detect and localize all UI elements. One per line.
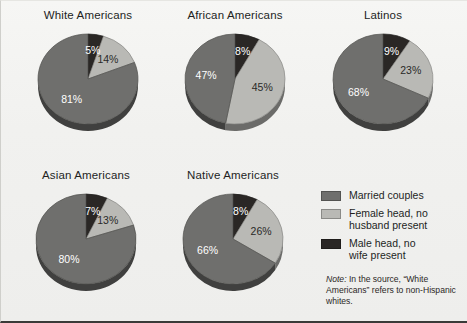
pie-slice-label: 9% <box>384 45 399 57</box>
pie-panel-african-americans: African Americans 8%45%47% <box>160 9 310 159</box>
pie-title-native-americans: Native Americans <box>158 169 308 181</box>
legend-item-female-head: Female head, no husband present <box>321 207 466 232</box>
figure-panel: White Americans 5%14%81% African America… <box>0 0 467 323</box>
pie-slice-label: 13% <box>97 214 118 226</box>
legend-label-female-head-line1: Female head, no <box>349 207 428 219</box>
pie-slice-label: 66% <box>197 244 218 256</box>
pie-title-african-americans: African Americans <box>160 9 310 21</box>
source-note: Note: In the source, “White Americans” r… <box>326 274 458 307</box>
legend-label-male-head-line2: wife present <box>349 249 406 261</box>
legend-item-male-head: Male head, no wife present <box>321 237 466 262</box>
source-note-label: Note: <box>326 274 347 284</box>
pie-panel-native-americans: Native Americans 8%26%66% <box>158 169 308 319</box>
pie-slice-label: 26% <box>251 225 272 237</box>
pie-chart-native-americans: 8%26%66% <box>181 189 287 297</box>
pie-slice-label: 81% <box>61 93 82 105</box>
pie-slice-label: 80% <box>58 253 79 265</box>
pie-chart-latinos: 9%23%68% <box>331 29 437 137</box>
legend-swatch-female-head <box>321 209 341 219</box>
legend-label-male-head-line1: Male head, no <box>349 237 416 249</box>
pie-panel-white-americans: White Americans 5%14%81% <box>13 9 163 159</box>
legend-swatch-male-head <box>321 239 341 249</box>
legend-label-female-head-line2: husband present <box>349 219 427 231</box>
pie-chart-white-americans: 5%14%81% <box>36 29 142 137</box>
pie-title-latinos: Latinos <box>308 9 458 21</box>
legend-item-married-couples: Married couples <box>321 189 466 202</box>
pie-chart-african-americans: 8%45%47% <box>183 29 289 137</box>
pie-title-white-americans: White Americans <box>13 9 163 21</box>
pie-panel-latinos: Latinos 9%23%68% <box>308 9 458 159</box>
legend-label-female-head: Female head, no husband present <box>349 207 428 232</box>
pie-slice-label: 47% <box>196 69 217 81</box>
pie-title-asian-americans: Asian Americans <box>11 169 161 181</box>
pie-slice-label: 8% <box>233 205 248 217</box>
legend-label-married-couples: Married couples <box>349 189 424 202</box>
legend-label-male-head: Male head, no wife present <box>349 237 416 262</box>
pie-slice-label: 8% <box>235 45 250 57</box>
legend-swatch-married-couples <box>321 191 341 201</box>
pie-slice-label: 14% <box>97 53 118 65</box>
legend: Married couples Female head, no husband … <box>321 189 466 267</box>
pie-chart-asian-americans: 7%13%80% <box>34 189 140 297</box>
pie-slice-label: 45% <box>252 81 273 93</box>
pie-panel-asian-americans: Asian Americans 7%13%80% <box>11 169 161 319</box>
pie-slice-label: 23% <box>400 64 421 76</box>
pie-slice-label: 68% <box>348 86 369 98</box>
